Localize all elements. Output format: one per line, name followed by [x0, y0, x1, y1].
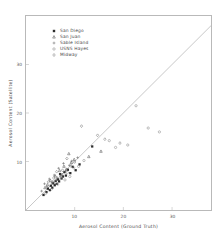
- x-axis-tick-label: 10: [71, 214, 77, 219]
- data-point: [73, 158, 76, 160]
- data-point: [55, 180, 57, 182]
- data-point: [53, 174, 56, 177]
- series-usns-hayes: [44, 105, 160, 195]
- legend-item-label: San Juan: [60, 34, 80, 39]
- data-point: [83, 159, 85, 161]
- data-point: [50, 185, 52, 187]
- legend-item-label: Midway: [60, 52, 78, 57]
- data-point: [70, 161, 73, 163]
- data-point: [58, 169, 61, 171]
- legend-item[interactable]: Midway: [48, 52, 89, 57]
- x-axis-tick-label: 20: [121, 214, 127, 219]
- data-point: [54, 184, 56, 186]
- data-point: [69, 172, 71, 174]
- x-axis-label: Aerosol Content (Ground Truth): [25, 224, 212, 229]
- data-point: [77, 165, 79, 167]
- data-point: [55, 170, 57, 173]
- data-point: [58, 180, 60, 182]
- data-point: [46, 183, 49, 185]
- data-point: [62, 162, 65, 165]
- series-midway: [47, 125, 121, 184]
- legend: San DiegoSan JuanSable IslandUSNS HayesM…: [48, 28, 89, 58]
- data-point: [66, 157, 68, 160]
- data-point: [158, 131, 160, 133]
- legend-marker-icon: [48, 52, 60, 58]
- data-point: [80, 125, 82, 128]
- data-point: [114, 146, 116, 148]
- data-point: [147, 127, 149, 129]
- data-point: [119, 142, 121, 145]
- data-point: [63, 165, 66, 167]
- series-san-diego: [42, 145, 93, 196]
- legend-item-label: Sable Island: [60, 40, 88, 45]
- legend-item[interactable]: USNS Hayes: [48, 46, 89, 51]
- legend-item[interactable]: San Diego: [48, 28, 89, 33]
- data-point: [76, 156, 79, 159]
- x-axis-tick-label: 30: [170, 214, 176, 219]
- data-point: [96, 134, 98, 137]
- data-point: [127, 144, 129, 146]
- legend-item[interactable]: Sable Island: [48, 40, 89, 45]
- legend-item-label: San Diego: [60, 28, 84, 33]
- data-point: [69, 175, 71, 177]
- data-point: [64, 179, 66, 181]
- legend-item-label: USNS Hayes: [60, 46, 89, 51]
- data-point: [60, 177, 62, 179]
- data-point: [91, 145, 93, 147]
- y-axis-tick-label: 20: [11, 111, 22, 116]
- scatter-plot-figure: Aerosol Content (Ground Truth) Aerosol C…: [0, 0, 223, 236]
- y-axis-tick-label: 30: [11, 62, 22, 67]
- data-point: [48, 178, 51, 181]
- data-point: [88, 155, 91, 157]
- data-point: [40, 190, 43, 193]
- data-point: [108, 140, 110, 142]
- y-axis-tick-label: 10: [11, 160, 22, 165]
- data-point: [68, 152, 71, 154]
- data-point: [75, 169, 77, 171]
- data-point: [135, 105, 137, 107]
- data-point: [104, 138, 106, 141]
- data-point: [66, 172, 68, 174]
- data-point: [65, 174, 67, 176]
- data-point: [100, 150, 103, 152]
- legend-item[interactable]: San Juan: [48, 34, 89, 39]
- data-point: [43, 183, 46, 186]
